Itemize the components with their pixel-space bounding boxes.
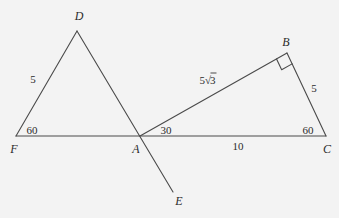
segment-side-F-D (16, 31, 77, 136)
vertex-label-A: A (132, 143, 139, 155)
length-label-AB: 5√3 (199, 75, 216, 86)
radical-radicand: 3 (210, 73, 217, 86)
diagram-canvas (0, 0, 339, 218)
vertex-label-B: B (282, 36, 289, 48)
vertex-label-C: C (323, 143, 331, 155)
angle-label-F: 60 (27, 125, 38, 136)
vertex-label-F: F (10, 143, 17, 155)
vertex-label-D: D (75, 10, 84, 22)
segment-group (16, 31, 326, 192)
length-label-FD: 5 (30, 74, 36, 85)
vertex-label-E: E (175, 195, 182, 207)
right-angle-marker-icon (277, 59, 293, 70)
geometry-diagram: D B F A C E 5 60 30 60 5 10 5√3 (0, 0, 339, 218)
angle-label-A: 30 (161, 125, 172, 136)
angle-label-C: 60 (303, 125, 314, 136)
segment-ray-D-E (77, 31, 173, 192)
length-label-BC: 5 (311, 83, 317, 94)
length-label-AC: 10 (233, 141, 244, 152)
